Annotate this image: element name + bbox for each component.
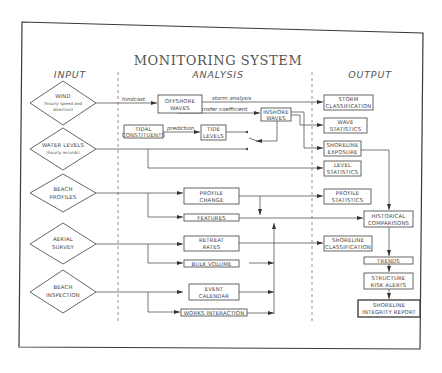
svg-text:RATES: RATES [203, 244, 221, 250]
switch-node-tide [246, 131, 248, 133]
svg-text:INSPECTION: INSPECTION [46, 292, 80, 298]
output-historical-comparisons: HISTORICAL COMPARISONS [364, 211, 413, 227]
input-aerial-survey: AERIAL SURVEY [30, 223, 96, 264]
svg-text:CHANGE: CHANGE [200, 197, 224, 203]
svg-text:STORM: STORM [338, 96, 358, 102]
svg-text:OFFSHORE: OFFSHORE [165, 98, 196, 104]
svg-text:PROFILE: PROFILE [200, 190, 224, 196]
edge-label-storm-analysis: storm analysis [212, 95, 251, 102]
svg-text:CALENDAR: CALENDAR [199, 293, 230, 299]
output-shoreline-exposure: SHORELINE EXPOSURE [324, 141, 361, 156]
analysis-works-interaction: WORKS INTERACTION [181, 309, 247, 316]
edge-label-hindcast: hindcast [122, 96, 146, 102]
output-structure-risk-alerts: STRUCTURE RISK ALERTS [364, 273, 413, 289]
analysis-profile-change: PROFILE CHANGE [184, 188, 239, 204]
svg-text:LEVELS: LEVELS [203, 133, 224, 139]
svg-text:INTEGRITY REPORT: INTEGRITY REPORT [362, 309, 416, 315]
svg-text:SHORELINE: SHORELINE [373, 302, 406, 308]
switch-node-water [246, 148, 248, 150]
svg-text:WIND: WIND [55, 93, 71, 99]
svg-text:WORKS INTERACTION: WORKS INTERACTION [184, 310, 245, 316]
svg-text:SHORELINE: SHORELINE [326, 142, 359, 148]
edge-label-prediction: prediction [166, 125, 195, 132]
svg-text:(hourly speed and: (hourly speed and [44, 101, 82, 106]
svg-text:WATER LEVELS: WATER LEVELS [42, 142, 85, 148]
svg-text:STATISTICS: STATISTICS [330, 126, 362, 132]
svg-text:FEATURES: FEATURES [197, 215, 226, 221]
svg-text:LEVEL: LEVEL [334, 162, 351, 168]
analysis-tidal-constituents: TIDAL CONSTITUENTS [122, 125, 166, 138]
svg-text:PROFILES: PROFILES [50, 194, 77, 200]
svg-text:SHORELINE: SHORELINE [332, 237, 365, 243]
output-storm-classification: STORM CLASSIFICATION [324, 95, 373, 110]
svg-text:EXPOSURE: EXPOSURE [327, 149, 358, 155]
output-wave-statistics: WAVE STATISTICS [324, 118, 367, 133]
svg-text:WAVE: WAVE [337, 119, 353, 125]
output-shoreline-integrity-report: SHORELINE INTEGRITY REPORT [358, 300, 420, 317]
svg-text:BULK VOLUME: BULK VOLUME [192, 261, 232, 267]
analysis-tide-levels: TIDE LEVELS [201, 125, 226, 140]
input-beach-profiles: BEACH PROFILES [30, 174, 96, 212]
svg-text:AERIAL: AERIAL [53, 236, 73, 242]
svg-text:COMPARISONS: COMPARISONS [368, 220, 410, 226]
output-trends: TRENDS [364, 257, 413, 264]
input-wind: WIND (hourly speed and direction) [30, 81, 96, 125]
analysis-bulk-volume: BULK VOLUME [184, 260, 239, 267]
column-input-header: INPUT [54, 69, 87, 80]
svg-text:CLASSIFICATION: CLASSIFICATION [325, 244, 371, 250]
analysis-event-calendar: EVENT CALENDAR [189, 284, 239, 300]
svg-text:TIDE: TIDE [206, 126, 220, 132]
analysis-retreat-rates: RETREAT RATES [184, 236, 239, 251]
column-output-header: OUTPUT [348, 69, 392, 80]
svg-text:RETREAT: RETREAT [199, 237, 225, 243]
output-shoreline-classification: SHORELINE CLASSIFICATION [324, 236, 372, 251]
svg-text:BEACH: BEACH [53, 284, 72, 290]
svg-text:RISK ALERTS: RISK ALERTS [371, 282, 407, 288]
edge-label-transfer-coefficient: transfer coefficient [196, 106, 248, 112]
svg-text:STATISTICS: STATISTICS [332, 197, 364, 203]
analysis-features: FEATURES [184, 214, 239, 221]
svg-text:SURVEY: SURVEY [52, 244, 75, 250]
analysis-offshore-waves: OFFSHORE WAVES [158, 95, 202, 113]
svg-text:TRENDS: TRENDS [376, 258, 400, 264]
input-water-levels: WATER LEVELS (hourly records) [30, 128, 96, 170]
svg-text:PROFILE: PROFILE [336, 190, 360, 196]
svg-text:STRUCTURE: STRUCTURE [372, 275, 406, 281]
input-beach-inspection: BEACH INSPECTION [30, 270, 96, 313]
monitoring-system-diagram: MONITORING SYSTEM INPUT ANALYSIS OUTPUT … [0, 0, 442, 373]
svg-text:WAVES: WAVES [266, 115, 286, 121]
svg-text:HISTORICAL: HISTORICAL [372, 213, 406, 219]
svg-text:CONSTITUENTS: CONSTITUENTS [122, 132, 166, 138]
svg-text:STATISTICS: STATISTICS [327, 169, 359, 175]
svg-text:WAVES: WAVES [170, 105, 190, 111]
svg-text:direction): direction) [53, 107, 73, 112]
output-profile-statistics: PROFILE STATISTICS [324, 189, 371, 204]
svg-text:BEACH: BEACH [53, 186, 72, 192]
svg-text:EVENT: EVENT [205, 286, 224, 292]
diagram-title: MONITORING SYSTEM [134, 53, 303, 68]
svg-text:(hourly records): (hourly records) [46, 150, 80, 155]
svg-text:CLASSIFICATION: CLASSIFICATION [326, 103, 372, 109]
column-analysis-header: ANALYSIS [191, 69, 244, 80]
output-level-statistics: LEVEL STATISTICS [324, 161, 361, 176]
analysis-inshore-waves: INSHORE WAVES [261, 108, 291, 121]
